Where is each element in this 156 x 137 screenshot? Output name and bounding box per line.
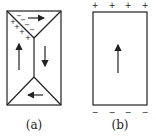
svg-text:+: + xyxy=(125,1,132,10)
panel-a-label: (a) xyxy=(14,118,54,132)
svg-text:−: − xyxy=(92,108,99,117)
panel-b-label: (b) xyxy=(100,118,140,132)
svg-text:+: + xyxy=(109,1,116,10)
svg-text:+: + xyxy=(142,1,149,10)
domain-wall xyxy=(7,77,34,105)
svg-text:−: − xyxy=(142,108,149,117)
svg-text:−: − xyxy=(29,26,35,34)
svg-text:+: + xyxy=(25,34,31,42)
svg-text:−: − xyxy=(125,108,132,117)
svg-text:+: + xyxy=(92,1,99,10)
svg-text:−: − xyxy=(109,108,116,117)
domain-wall xyxy=(34,77,61,105)
panel-b-frame xyxy=(93,12,147,105)
diagram-canvas: + + + + − − − − + + + + − − − − xyxy=(0,0,156,137)
panel-b-charges: + + + + − − − − xyxy=(92,1,149,117)
panel-b xyxy=(93,12,147,105)
domain-wall xyxy=(34,11,61,38)
